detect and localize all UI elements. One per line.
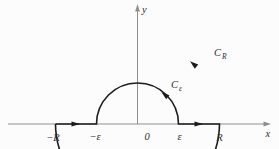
y-axis-label: y xyxy=(141,4,147,15)
tick-label-eps: ε xyxy=(177,131,182,142)
tick-label-R: R xyxy=(215,132,223,143)
small-arc-arrow-icon xyxy=(160,90,170,99)
contour-diagram: y x −R −ε 0 ε R C R C ε xyxy=(0,0,279,149)
x-axis-arrow-icon xyxy=(264,122,272,127)
large-contour-label-main: C xyxy=(214,47,222,58)
small-contour-label-main: C xyxy=(171,79,179,90)
segment-arrow-left-icon xyxy=(72,121,81,126)
x-axis-label: x xyxy=(265,128,271,139)
large-arc-arrow-icon xyxy=(188,59,198,69)
small-contour-label: C ε xyxy=(171,79,182,93)
large-contour-label: C R xyxy=(214,47,227,61)
y-axis-arrow-icon xyxy=(135,4,140,12)
large-contour-label-sub: R xyxy=(221,52,227,61)
tick-label-zero: 0 xyxy=(144,131,150,142)
tick-label-neg-eps: −ε xyxy=(89,131,101,142)
small-contour-label-sub: ε xyxy=(179,84,182,93)
segment-arrow-right-icon xyxy=(195,121,204,126)
diagram-canvas: y x −R −ε 0 ε R C R C ε xyxy=(0,0,279,149)
tick-label-neg-R: −R xyxy=(46,132,60,143)
